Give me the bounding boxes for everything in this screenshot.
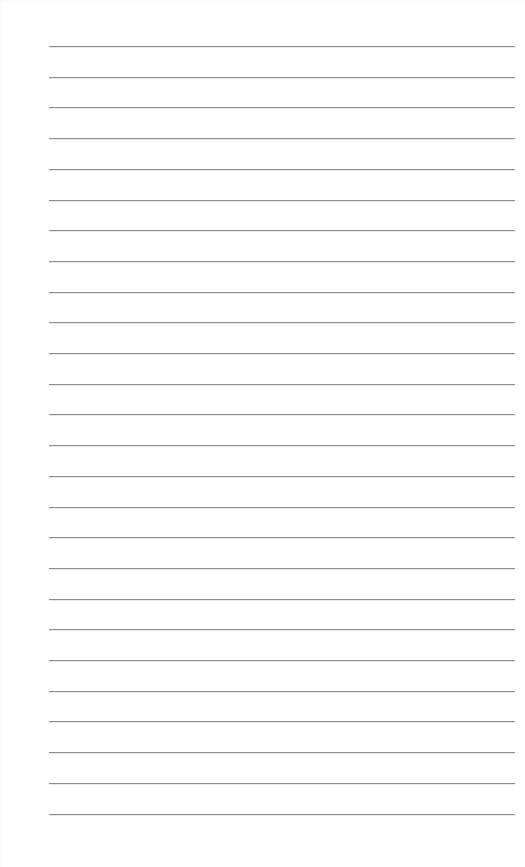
ruled-line xyxy=(49,445,515,446)
ruled-line xyxy=(49,814,515,815)
ruled-line xyxy=(49,138,515,139)
ruled-line xyxy=(49,568,515,569)
ruled-line xyxy=(49,691,515,692)
ruled-line xyxy=(49,261,515,262)
ruled-line xyxy=(49,169,515,170)
ruled-line xyxy=(49,322,515,323)
ruled-line xyxy=(49,107,515,108)
ruled-line xyxy=(49,384,515,385)
ruled-line xyxy=(49,629,515,630)
ruled-line xyxy=(49,783,515,784)
ruled-line xyxy=(49,537,515,538)
lined-paper-page xyxy=(0,0,525,867)
ruled-line xyxy=(49,599,515,600)
ruled-line xyxy=(49,476,515,477)
ruled-line xyxy=(49,77,515,78)
ruled-line xyxy=(49,752,515,753)
ruled-line xyxy=(49,46,515,47)
ruled-line xyxy=(49,230,515,231)
ruled-line xyxy=(49,200,515,201)
ruled-line xyxy=(49,507,515,508)
ruled-line xyxy=(49,721,515,722)
ruled-line xyxy=(49,292,515,293)
ruled-line xyxy=(49,353,515,354)
ruled-line xyxy=(49,414,515,415)
ruled-line xyxy=(49,660,515,661)
